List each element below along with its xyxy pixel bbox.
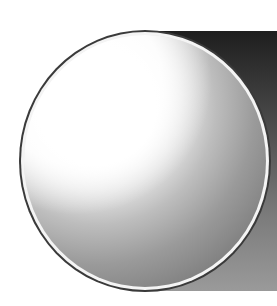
sphere-highlight — [24, 35, 266, 287]
